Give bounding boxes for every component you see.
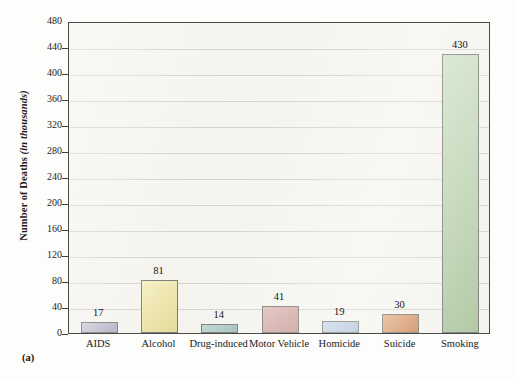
bar-smoking (442, 54, 479, 334)
bar-aids (81, 322, 118, 333)
panel-label: (a) (22, 352, 34, 363)
gridline (69, 153, 489, 154)
bar-value-label: 30 (370, 299, 430, 310)
bar-homicide (322, 321, 359, 333)
y-tick-label: 80 (22, 275, 62, 286)
bar-suicide (382, 314, 419, 334)
y-tick-label: 40 (22, 301, 62, 312)
bar-chart-figure: Number of Deaths (in thousands) 04080120… (0, 0, 515, 381)
y-tick-label: 360 (22, 93, 62, 104)
category-label: Smoking (415, 338, 505, 349)
gridline (69, 179, 489, 180)
y-tick-label: 160 (22, 223, 62, 234)
bar-value-label: 41 (249, 291, 309, 302)
y-tick-label: 0 (22, 327, 62, 338)
bar-value-label: 19 (309, 306, 369, 317)
gridline (69, 231, 489, 232)
y-tick-label: 320 (22, 119, 62, 130)
plot-area (68, 22, 490, 334)
y-tick-label: 480 (22, 15, 62, 26)
y-axis-title: Number of Deaths (in thousands) (18, 51, 29, 281)
gridline (69, 75, 489, 76)
gridline (69, 127, 489, 128)
gridline (69, 283, 489, 284)
y-tick-label: 240 (22, 171, 62, 182)
gridline (69, 49, 489, 50)
bar-motor-vehicle (262, 306, 299, 333)
bar-value-label: 17 (68, 307, 128, 318)
y-tick-label: 440 (22, 41, 62, 52)
y-tick-label: 400 (22, 67, 62, 78)
y-tick-label: 200 (22, 197, 62, 208)
bar-value-label: 430 (430, 39, 490, 50)
bar-value-label: 14 (189, 309, 249, 320)
bar-drug-induced (201, 324, 238, 333)
gridline (69, 101, 489, 102)
bar-value-label: 81 (128, 265, 188, 276)
gridline (69, 257, 489, 258)
y-tick-label: 120 (22, 249, 62, 260)
bar-alcohol (141, 280, 178, 333)
y-tick-label: 280 (22, 145, 62, 156)
gridline (69, 205, 489, 206)
